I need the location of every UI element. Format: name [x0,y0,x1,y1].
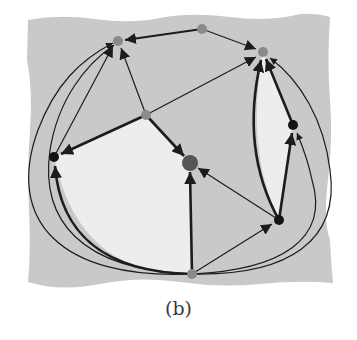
node-D [141,110,151,120]
node-G [288,120,298,130]
node-F [182,155,198,171]
node-I [187,269,197,279]
node-C [258,47,268,57]
node-H [274,215,284,225]
node-A [113,36,123,46]
node-E [49,152,59,162]
directed-graph-figure [0,0,357,340]
node-B [197,24,207,34]
figure-caption: (b) [0,297,357,319]
